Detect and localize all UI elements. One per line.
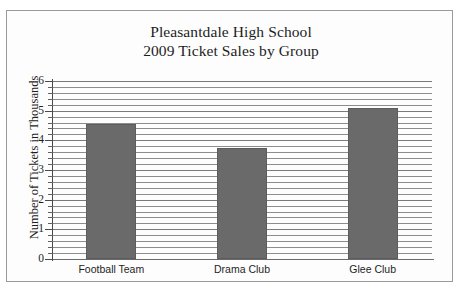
- y-tick-major: [45, 259, 53, 260]
- y-tick-minor: [48, 164, 53, 165]
- chart-title-line-2: 2009 Ticket Sales by Group: [0, 41, 462, 60]
- y-tick-minor: [48, 241, 53, 242]
- y-tick-minor: [48, 123, 53, 124]
- y-tick-minor: [48, 188, 53, 189]
- y-tick-label: 3: [24, 164, 44, 176]
- y-tick-major: [45, 229, 53, 230]
- y-tick-label: 6: [24, 75, 44, 87]
- bar: [86, 124, 136, 259]
- y-tick-major: [45, 170, 53, 171]
- y-tick-minor: [48, 223, 53, 224]
- y-tick-minor: [48, 212, 53, 213]
- x-tick-label: Drama Club: [182, 263, 302, 275]
- y-tick-major: [45, 111, 53, 112]
- y-tick-minor: [48, 117, 53, 118]
- y-tick-minor: [48, 93, 53, 94]
- chart-title-line-1: Pleasantdale High School: [0, 22, 462, 41]
- y-tick-major: [45, 140, 53, 141]
- y-tick-minor: [48, 99, 53, 100]
- y-tick-minor: [48, 158, 53, 159]
- y-tick-minor: [48, 176, 53, 177]
- gridline-minor: [52, 87, 432, 88]
- y-tick-label: 2: [24, 194, 44, 206]
- y-tick-label: 5: [24, 105, 44, 117]
- y-tick-minor: [48, 87, 53, 88]
- gridline-minor: [52, 99, 432, 100]
- y-tick-minor: [48, 206, 53, 207]
- x-axis-line: [46, 259, 434, 260]
- y-tick-minor: [48, 105, 53, 106]
- bar: [348, 108, 398, 259]
- chart-title: Pleasantdale High School 2009 Ticket Sal…: [0, 22, 462, 60]
- y-tick-minor: [48, 182, 53, 183]
- y-tick-minor: [48, 247, 53, 248]
- y-tick-minor: [48, 194, 53, 195]
- y-tick-minor: [48, 146, 53, 147]
- gridline-minor: [52, 93, 432, 94]
- y-tick-minor: [48, 217, 53, 218]
- gridline-major: [52, 81, 432, 82]
- chart-figure: Pleasantdale High School 2009 Ticket Sal…: [0, 0, 462, 291]
- y-tick-minor: [48, 134, 53, 135]
- y-tick-major: [45, 81, 53, 82]
- y-tick-label: 1: [24, 223, 44, 235]
- y-tick-minor: [48, 128, 53, 129]
- y-tick-minor: [48, 152, 53, 153]
- y-tick-label: 0: [24, 253, 44, 265]
- x-tick-label: Football Team: [51, 263, 171, 275]
- y-tick-minor: [48, 253, 53, 254]
- y-tick-major: [45, 200, 53, 201]
- y-tick-label: 4: [24, 134, 44, 146]
- y-tick-minor: [48, 235, 53, 236]
- plot-area: [52, 81, 432, 259]
- gridline-minor: [52, 105, 432, 106]
- x-tick-label: Glee Club: [313, 263, 433, 275]
- bar: [217, 148, 267, 259]
